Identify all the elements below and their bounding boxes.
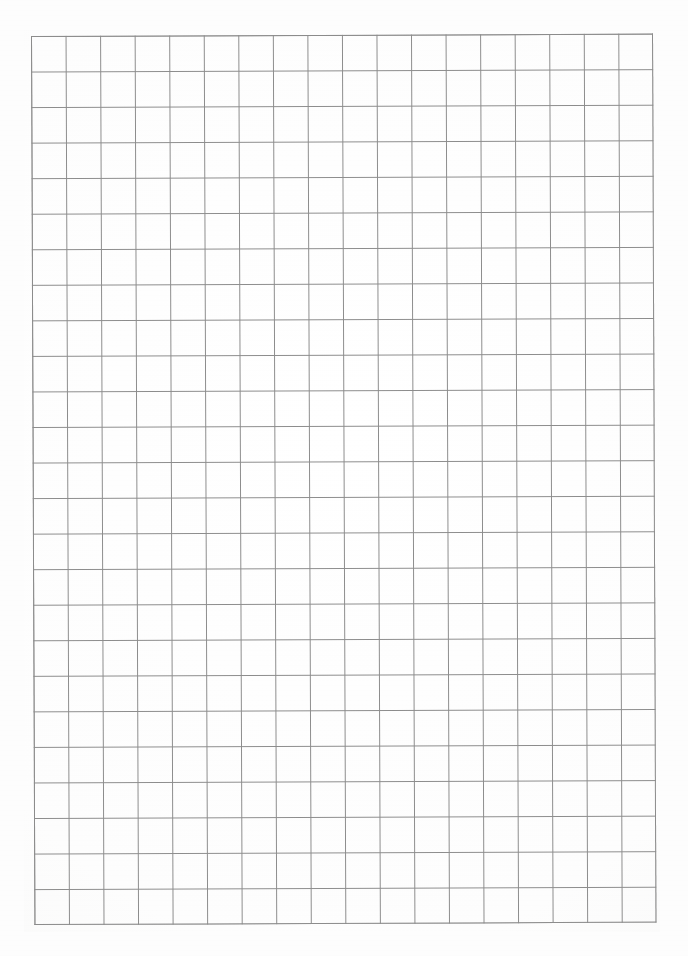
page-margin-bottom: [0, 932, 688, 956]
page-margin-right: [660, 0, 688, 956]
page-margin-top: [0, 0, 688, 30]
graph-paper-page: [0, 0, 688, 956]
page-margin-left: [0, 0, 24, 956]
grid-area: [31, 34, 656, 925]
grid-lines: [31, 34, 656, 925]
